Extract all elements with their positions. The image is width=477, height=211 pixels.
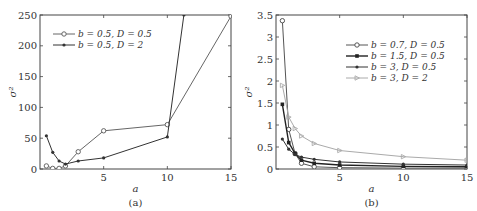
y-tick-label: 3 bbox=[267, 32, 273, 43]
circle-marker bbox=[44, 164, 48, 168]
figure: 05010015020025051015aσ²(a)b = 0.5, D = 0… bbox=[0, 0, 477, 211]
y-tick-label: 1 bbox=[267, 120, 273, 131]
legend: b = 0.7, D = 0.5b = 1.5, D = 0.5b = 3, D… bbox=[346, 40, 445, 83]
dot-marker bbox=[102, 156, 105, 159]
star-marker bbox=[355, 54, 359, 58]
circle-marker bbox=[51, 166, 55, 170]
y-tick-label: 0.5 bbox=[257, 142, 273, 153]
star-marker bbox=[281, 103, 285, 107]
y-tick-label: 100 bbox=[18, 102, 37, 113]
x-tick-label: 10 bbox=[397, 172, 410, 183]
dot-marker bbox=[338, 160, 341, 163]
y-tick-label: 50 bbox=[24, 133, 37, 144]
series-line bbox=[282, 139, 467, 165]
star-marker bbox=[300, 158, 304, 162]
panel-caption: (b) bbox=[364, 197, 378, 208]
dot-marker bbox=[355, 65, 358, 68]
circle-marker bbox=[57, 166, 61, 170]
legend-entry: b = 3, D = 0.5 bbox=[371, 62, 437, 72]
dot-marker bbox=[62, 43, 65, 46]
y-tick-label: 150 bbox=[18, 71, 37, 82]
circle-marker bbox=[355, 43, 359, 47]
x-tick-label: 15 bbox=[225, 172, 238, 183]
star-marker bbox=[338, 163, 342, 167]
chart-panel-a: 05010015020025051015aσ²(a)b = 0.5, D = 0… bbox=[7, 10, 237, 209]
series-line bbox=[282, 85, 467, 160]
dot-marker bbox=[45, 134, 48, 137]
dot-marker bbox=[281, 137, 284, 140]
circle-marker bbox=[280, 19, 284, 23]
x-axis-label: a bbox=[369, 183, 375, 194]
chart-panel-b: 00.511.522.533.551015aσ²(b)b = 0.7, D = … bbox=[243, 10, 473, 209]
dot-marker bbox=[402, 163, 405, 166]
plot-frame bbox=[276, 15, 467, 169]
y-tick-label: 0 bbox=[31, 164, 37, 175]
legend: b = 0.5, D = 0.5b = 0.5, D = 2 bbox=[53, 29, 152, 50]
y-tick-label: 3.5 bbox=[257, 10, 273, 21]
circle-marker bbox=[312, 165, 316, 169]
dot-marker bbox=[465, 163, 468, 166]
dot-marker bbox=[287, 148, 290, 151]
legend-entry: b = 1.5, D = 0.5 bbox=[371, 51, 445, 61]
series-line bbox=[282, 104, 467, 166]
x-tick-label: 5 bbox=[100, 172, 106, 183]
x-axis-label: a bbox=[133, 183, 139, 194]
dot-marker bbox=[51, 151, 54, 154]
legend-entry: b = 0.5, D = 2 bbox=[78, 40, 144, 50]
circle-marker bbox=[101, 129, 105, 133]
legend-entry: b = 0.5, D = 0.5 bbox=[78, 29, 152, 39]
legend-entry: b = 0.7, D = 0.5 bbox=[371, 40, 445, 50]
y-axis-label: σ² bbox=[243, 87, 254, 98]
panel-caption: (a) bbox=[129, 197, 143, 208]
dot-marker bbox=[166, 135, 169, 138]
circle-marker bbox=[62, 32, 66, 36]
dot-marker bbox=[313, 158, 316, 161]
dot-marker bbox=[58, 159, 61, 162]
dot-marker bbox=[77, 159, 80, 162]
dot-marker bbox=[64, 162, 67, 165]
y-tick-label: 2.5 bbox=[257, 54, 273, 65]
y-axis-label: σ² bbox=[7, 87, 18, 98]
dot-marker bbox=[294, 153, 297, 156]
legend-entry: b = 3, D = 2 bbox=[371, 73, 428, 83]
x-tick-label: 5 bbox=[336, 172, 342, 183]
star-marker bbox=[312, 161, 316, 165]
circle-marker bbox=[76, 150, 80, 154]
dot-marker bbox=[182, 13, 185, 16]
x-tick-label: 10 bbox=[161, 172, 174, 183]
star-marker bbox=[287, 141, 291, 145]
x-tick-label: 15 bbox=[461, 172, 474, 183]
y-tick-label: 200 bbox=[18, 40, 37, 51]
dot-marker bbox=[300, 156, 303, 159]
y-tick-label: 250 bbox=[18, 10, 37, 21]
y-tick-label: 2 bbox=[267, 76, 273, 87]
y-tick-label: 1.5 bbox=[257, 98, 273, 109]
y-tick-label: 0 bbox=[267, 164, 273, 175]
